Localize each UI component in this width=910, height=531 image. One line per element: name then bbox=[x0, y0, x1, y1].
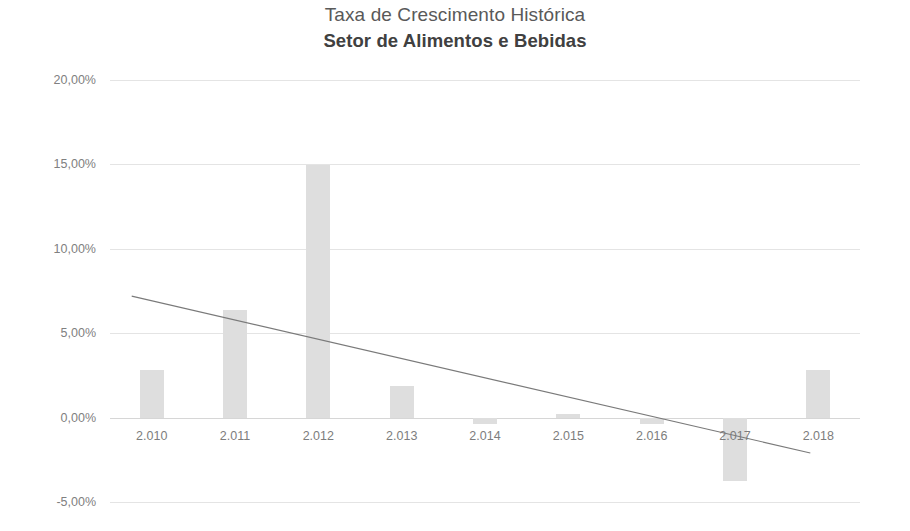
bar-2015 bbox=[556, 414, 580, 417]
x-axis-tick-label: 2.013 bbox=[362, 429, 442, 444]
gridline bbox=[110, 249, 860, 250]
x-axis-tick-label: 2.015 bbox=[528, 429, 608, 444]
chart-subtitle: Setor de Alimentos e Bebidas bbox=[0, 28, 910, 53]
bar-2012 bbox=[306, 165, 330, 417]
y-axis-tick-label: 20,00% bbox=[0, 73, 96, 87]
x-axis-tick-label: 2.014 bbox=[445, 429, 525, 444]
gridline bbox=[110, 80, 860, 81]
bar-2011 bbox=[223, 310, 247, 418]
x-axis-tick-label: 2.018 bbox=[778, 429, 858, 444]
bar-2016 bbox=[640, 418, 664, 425]
gridline bbox=[110, 164, 860, 165]
bar-2013 bbox=[390, 386, 414, 418]
y-axis-tick-label: 15,00% bbox=[0, 157, 96, 171]
bar-2010 bbox=[140, 370, 164, 418]
x-axis-tick-label: 2.017 bbox=[695, 429, 775, 444]
y-axis-tick-label: 5,00% bbox=[0, 326, 96, 340]
chart-title: Taxa de Crescimento Histórica bbox=[0, 2, 910, 28]
bar-2018 bbox=[806, 370, 830, 418]
gridline bbox=[110, 502, 860, 503]
x-axis-tick-label: 2.011 bbox=[195, 429, 275, 444]
chart-title-block: Taxa de Crescimento Histórica Setor de A… bbox=[0, 2, 910, 53]
bar-2017 bbox=[723, 418, 747, 481]
x-axis-tick-label: 2.012 bbox=[278, 429, 358, 444]
bar-2014 bbox=[473, 418, 497, 425]
y-axis-tick-label: 0,00% bbox=[0, 411, 96, 425]
y-axis-tick-label: 10,00% bbox=[0, 242, 96, 256]
x-axis-tick-label: 2.010 bbox=[112, 429, 192, 444]
chart-container: Taxa de Crescimento Histórica Setor de A… bbox=[0, 0, 910, 531]
y-axis-tick-label: -5,00% bbox=[0, 495, 96, 509]
x-axis-tick-label: 2.016 bbox=[612, 429, 692, 444]
